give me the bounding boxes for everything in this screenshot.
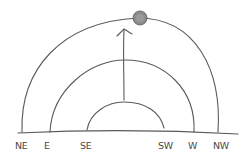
sun-path-diagram: NE E SE SW W NW — [0, 0, 252, 161]
arc-equinox-path — [50, 60, 194, 132]
sun-core — [136, 14, 144, 22]
horizon-line — [18, 131, 238, 135]
arc-winter-path — [87, 102, 164, 130]
label-sw: SW — [158, 140, 174, 151]
label-ne: NE — [15, 140, 28, 151]
arc-summer-path — [22, 18, 218, 132]
label-e: E — [44, 140, 50, 151]
label-w: W — [188, 140, 198, 151]
label-nw: NW — [213, 140, 230, 151]
label-se: SE — [80, 140, 92, 151]
